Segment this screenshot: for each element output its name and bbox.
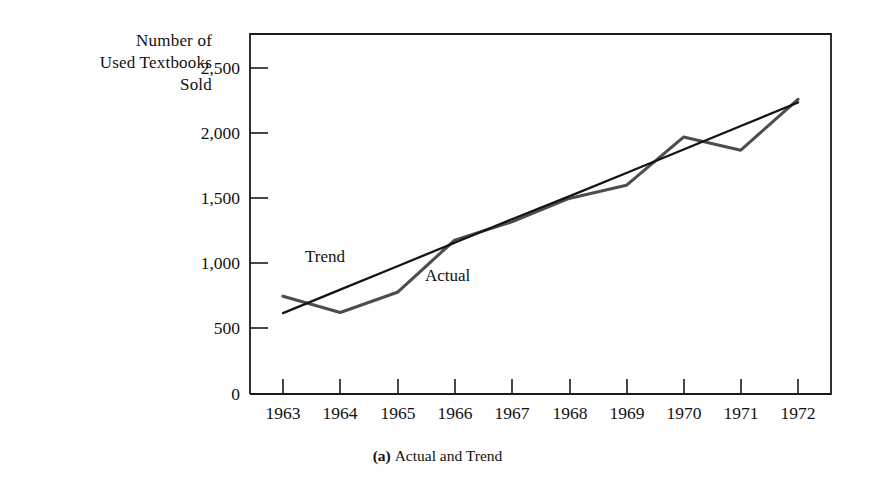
figure-caption-index: (a) (373, 447, 391, 464)
y-tick-label-2500: 2,500 (148, 59, 240, 77)
series-annotation-actual: Actual (425, 267, 470, 285)
y-tick-label-500: 500 (148, 319, 240, 337)
figure-caption: (a) Actual and Trend (0, 446, 875, 466)
x-axis-ticks (283, 379, 798, 394)
y-tick-label-1000: 1,000 (148, 254, 240, 272)
figure-caption-text: Actual and Trend (395, 447, 503, 464)
plot-frame (250, 34, 831, 394)
x-tick-label-1972: 1972 (762, 404, 834, 422)
y-tick-label-1500: 1,500 (148, 189, 240, 207)
series-annotation-trend: Trend (305, 248, 345, 266)
y-tick-label-2000: 2,000 (148, 124, 240, 142)
figure-container: Number of Used Textbooks Sold (0, 0, 875, 483)
y-axis-title-line-1: Number of (60, 30, 212, 52)
series-line-trend (283, 103, 798, 314)
y-axis-ticks (250, 68, 268, 328)
y-tick-label-0: 0 (148, 385, 240, 403)
plot-frame-path (250, 34, 831, 394)
y-axis-title-line-3: Sold (60, 74, 212, 96)
